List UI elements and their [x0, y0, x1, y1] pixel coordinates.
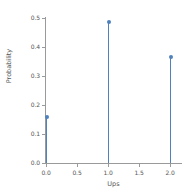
stem-line: [46, 117, 47, 163]
x-axis-tick-mark: [108, 164, 109, 167]
data-point-marker: [107, 20, 111, 24]
data-point-marker: [169, 55, 173, 59]
y-axis-tick-label: 0.1: [0, 131, 40, 137]
x-axis-tick-mark: [77, 164, 78, 167]
stem-line: [108, 22, 109, 163]
y-axis-tick-mark: [42, 163, 45, 164]
x-axis-tick-mark: [170, 164, 171, 167]
x-axis-tick-label: 0.5: [65, 169, 89, 176]
stem-line: [170, 57, 171, 163]
y-axis-tick-mark: [42, 105, 45, 106]
stem-plot-figure: 0.00.10.20.30.40.5 0.00.51.01.52.0 Ups P…: [0, 0, 190, 195]
x-axis-title: Ups: [45, 180, 182, 188]
x-axis-tick-label: 1.0: [96, 169, 120, 176]
plot-area: [46, 18, 170, 163]
x-axis-tick-label: 1.5: [127, 169, 151, 176]
y-axis-tick-label: 0.0: [0, 160, 40, 166]
x-axis-tick-label: 2.0: [158, 169, 182, 176]
x-axis-tick-label: 0.0: [34, 169, 58, 176]
x-axis-tick-mark: [46, 164, 47, 167]
x-axis-tick-mark: [139, 164, 140, 167]
y-axis-tick-mark: [42, 47, 45, 48]
data-point-marker: [45, 115, 49, 119]
y-axis-tick-label: 0.5: [0, 15, 40, 21]
x-axis-spine: [45, 163, 182, 164]
y-axis-title: Probability: [5, 26, 13, 106]
y-axis-tick-mark: [42, 18, 45, 19]
y-axis-tick-mark: [42, 76, 45, 77]
y-axis-tick-mark: [42, 134, 45, 135]
